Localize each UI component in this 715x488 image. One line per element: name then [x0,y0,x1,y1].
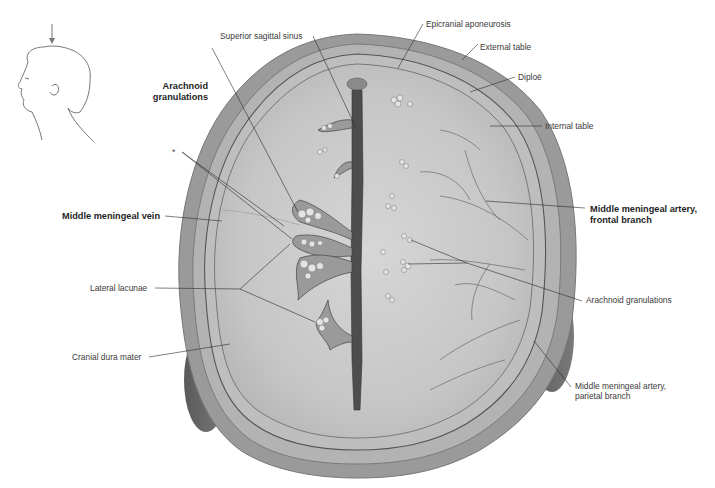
anatomy-figure: Superior sagittal sinus Epicranial apone… [0,0,715,488]
label-line-2: frontal branch [590,215,697,226]
label-line-1: Middle meningeal artery, [575,381,666,391]
label-external-table: External table [480,42,531,52]
label-diploe: Diploë [518,72,542,82]
label-superior-sagittal-sinus: Superior sagittal sinus [220,31,302,41]
label-asterisk: * [172,147,175,157]
cranial-dura-mater [215,64,534,438]
label-lateral-lacunae: Lateral lacunae [90,283,147,293]
label-line-2: granulations [152,92,208,103]
label-epicranial-aponeurosis: Epicranial aponeurosis [426,19,511,29]
label-line-1: Arachnoid [152,81,208,92]
label-arachnoid-granulations-bold: Arachnoid granulations [152,81,208,103]
label-middle-meningeal-vein: Middle meningeal vein [62,211,160,222]
label-line-2: parietal branch [575,391,666,401]
label-internal-table: Internal table [545,121,593,131]
superior-sagittal-sinus [351,90,363,410]
label-middle-meningeal-artery-frontal: Middle meningeal artery, frontal branch [590,204,697,226]
head-profile-icon [18,24,94,142]
label-arachnoid-granulations: Arachnoid granulations [586,295,672,305]
label-middle-meningeal-artery-parietal: Middle meningeal artery, parietal branch [575,381,666,401]
skull-illustration [0,0,715,488]
label-line-1: Middle meningeal artery, [590,204,697,215]
label-cranial-dura-mater: Cranial dura mater [72,352,141,362]
